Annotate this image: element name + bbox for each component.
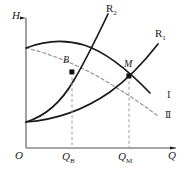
curve-label-r1-subscript: 1 <box>162 34 166 42</box>
tick-label-qb: QB <box>62 151 75 165</box>
marker-point-M <box>126 73 131 78</box>
tick-label-qm: QM <box>118 151 132 165</box>
curve-R1-solid <box>26 44 158 122</box>
x-axis-label: Q <box>168 150 176 161</box>
curve-label-r1: R1 <box>155 28 166 42</box>
y-axis-label: H <box>12 10 20 21</box>
tick-label-qb-base: Q <box>62 150 70 162</box>
curve-R2-solid <box>26 14 108 122</box>
origin-label: O <box>15 150 23 161</box>
figure-container: H Q O R2 R1 B M Ⅰ Ⅱ QB QM <box>0 0 189 174</box>
point-label-m: M <box>124 59 132 69</box>
tick-label-qb-subscript: B <box>70 157 75 165</box>
curve-label-two: Ⅱ <box>165 111 171 120</box>
tick-label-qm-subscript: M <box>126 157 132 165</box>
tick-label-qm-base: Q <box>118 150 126 162</box>
point-label-b: B <box>63 55 69 65</box>
curve-label-r2-subscript: 2 <box>113 9 117 17</box>
curve-label-r2: R2 <box>106 3 117 17</box>
curve-label-one: Ⅰ <box>167 91 171 100</box>
marker-point-B <box>69 69 74 74</box>
